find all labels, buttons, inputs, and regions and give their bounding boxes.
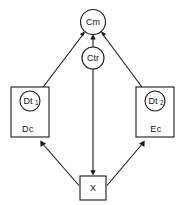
node-dc-box: Dt 1 Dc <box>11 87 49 137</box>
node-dt1-sublabel: 1 <box>35 99 39 106</box>
edge-dt2-to-cm-line <box>102 33 148 95</box>
edge-ctr-to-x <box>90 69 95 176</box>
diagram-canvas: Cm Ctr Dt 1 Dc Dt 2 Ec X <box>0 0 184 205</box>
node-dt2-label: Dt <box>149 96 158 106</box>
node-dt2-sublabel: 2 <box>160 99 164 106</box>
edge-dt1-to-cm-line <box>38 33 85 95</box>
edge-x-to-ec-box-line <box>107 143 143 186</box>
node-x-box: X <box>80 176 106 200</box>
edge-x-to-ec-box <box>107 141 145 186</box>
edge-dt1-to-cm <box>38 31 85 94</box>
edge-ctr-to-x-arrowhead <box>90 170 95 175</box>
node-ctr-label: Ctr <box>87 53 99 63</box>
node-dt1-label: Dt <box>24 96 33 106</box>
node-ec-box: Dt 2 Ec <box>136 87 174 137</box>
edge-x-to-dc-box <box>40 141 79 186</box>
diagram-container: Cm Ctr Dt 1 Dc Dt 2 Ec X <box>0 0 184 205</box>
edge-ctr-to-cm <box>90 34 95 47</box>
edge-x-to-dc-box-line <box>42 143 79 186</box>
node-cm-label: Cm <box>86 17 100 27</box>
node-ctr: Ctr <box>82 47 104 69</box>
node-cm: Cm <box>81 10 106 35</box>
node-x-box-label: X <box>90 183 96 193</box>
edge-dt2-to-cm <box>101 31 147 94</box>
node-ec-box-caption: Ec <box>150 124 162 134</box>
node-dc-box-caption: Dc <box>22 124 34 134</box>
